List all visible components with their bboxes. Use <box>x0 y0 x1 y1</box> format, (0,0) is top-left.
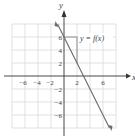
y-tick-label: −6 <box>55 112 63 120</box>
x-tick-label: −6 <box>19 79 27 87</box>
y-tick-label: 6 <box>59 34 63 42</box>
y-tick-label: 4 <box>59 47 63 55</box>
y-tick-label: −4 <box>55 99 63 107</box>
y-axis-arrow-icon <box>62 10 67 17</box>
y-tick-label: 2 <box>59 60 63 68</box>
x-tick-label: −4 <box>33 79 41 87</box>
x-tick-label: −2 <box>46 79 54 87</box>
function-label: y = f(x) <box>79 34 104 43</box>
y-tick-label: −2 <box>55 86 63 94</box>
x-axis-label: x <box>131 72 135 82</box>
x-tick-label: 6 <box>101 79 105 87</box>
y-axis-label: y <box>58 0 63 10</box>
x-axis-arrow-icon <box>126 74 131 79</box>
function-graph: x y −6 −4 −2 2 6 6 4 2 −2 −4 −6 y = f(x) <box>0 0 135 136</box>
x-tick-label: 2 <box>75 79 79 87</box>
axes <box>4 12 126 136</box>
